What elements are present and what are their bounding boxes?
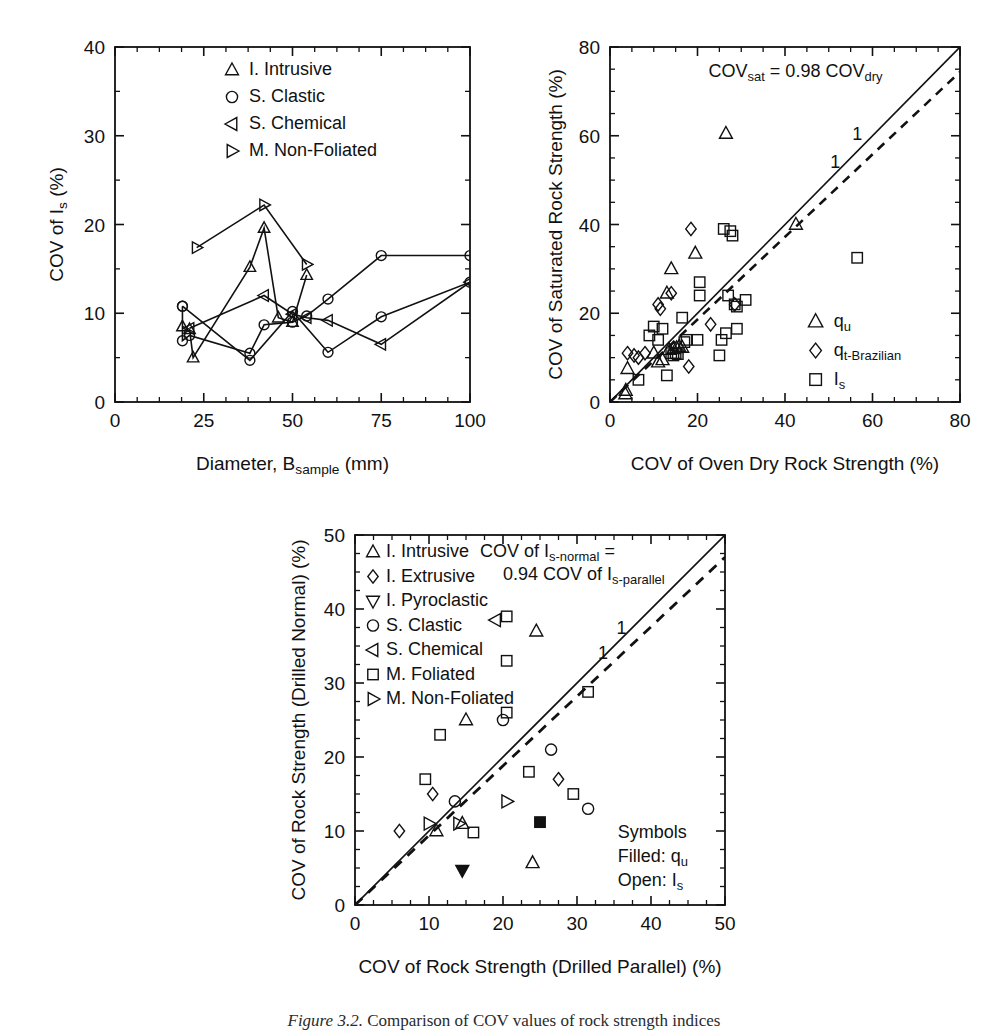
panel-a-legend-marker — [226, 63, 239, 75]
panel-c-data-point — [460, 713, 473, 725]
panel-a-legend-marker — [227, 145, 239, 158]
panel-c-symbols-title: Symbols — [618, 822, 687, 842]
panel-c-legend-label: S. Chemical — [386, 639, 483, 659]
panel-c-data-point — [583, 803, 594, 814]
panel-c-data-point — [497, 714, 508, 725]
panel-b-data-point — [621, 362, 634, 374]
panel-b-data-point — [633, 351, 643, 364]
panel-b-slope-label-lower: 1 — [830, 152, 840, 172]
panel-c-data-point — [568, 789, 578, 799]
panel-b-data-point — [716, 335, 726, 345]
panel-a-xtick-label: 100 — [454, 410, 486, 431]
panel-c-slope-label-upper: 1 — [616, 618, 626, 638]
panel-a-series-line — [197, 205, 307, 264]
panel-b-xtick-label: 80 — [949, 410, 970, 431]
panel-b-data-point — [852, 253, 862, 263]
panel-a-ytick-label: 20 — [84, 215, 105, 236]
panel-b-ytick-label: 0 — [589, 392, 600, 413]
panel-c-xaxis-title: COV of Rock Strength (Drilled Parallel) … — [358, 956, 721, 977]
panel-a-axes: 0255075100010203040Diameter, Bsample (mm… — [46, 37, 486, 477]
panel-b-yaxis-title: COV of Saturated Rock Strength (%) — [545, 69, 566, 379]
panel-b-legend-marker — [808, 314, 822, 327]
panel-b-data-point — [714, 350, 724, 360]
panel-b-data-point — [662, 370, 672, 380]
panel-c-legend-label: I. Pyroclastic — [386, 590, 488, 610]
panel-c-xtick-label: 40 — [640, 913, 661, 934]
figure-caption: Figure 3.2. Comparison of COV values of … — [0, 1006, 1008, 1033]
panel-a-ytick-label: 40 — [84, 37, 105, 58]
panel-b-data-point — [689, 246, 702, 258]
panel-a-legend-label: I. Intrusive — [249, 59, 332, 79]
panel-c-symbols-filled: Filled: qu — [618, 846, 688, 869]
panel-b-xtick-label: 0 — [605, 410, 616, 431]
panel-a-data-point — [260, 199, 270, 210]
panel-b-legend-label: qt-Brazilian — [834, 340, 902, 363]
panel-b-data-point — [719, 127, 732, 139]
panel-c-xtick-label: 50 — [714, 913, 735, 934]
panel-a-series-line — [190, 282, 470, 344]
panel-c-legend-marker — [367, 596, 380, 608]
panel-c-legend-label: S. Clastic — [386, 615, 462, 635]
panel-b-legend-marker — [810, 343, 822, 358]
panel-c-data-point — [489, 614, 501, 627]
panel-b-data-point — [677, 312, 687, 322]
panel-c-data-point — [530, 624, 543, 636]
panel-c-data-point — [435, 730, 445, 740]
panel-a-xtick-label: 50 — [282, 410, 303, 431]
panel-a-data — [177, 199, 475, 365]
panel-c-data-point — [502, 795, 514, 808]
panel-b-equation: COVsat = 0.98 COVdry — [709, 61, 883, 84]
panel-c-data-point — [546, 744, 557, 755]
panel-c-legend-marker — [367, 545, 380, 557]
panel-c-legend-label: I. Extrusive — [386, 566, 475, 586]
panel-c-legend-marker — [367, 620, 378, 631]
panel-c-data-point — [526, 856, 539, 868]
panel-c-xtick-label: 10 — [418, 913, 439, 934]
panel-a-svg: 0255075100010203040Diameter, Bsample (mm… — [0, 0, 500, 500]
panel-b-data-point — [692, 335, 702, 345]
panel-a-xtick-label: 0 — [110, 410, 121, 431]
panel-b-slope-label-upper: 1 — [852, 124, 862, 144]
panel-c-xtick-label: 0 — [350, 913, 361, 934]
panel-c-ytick-label: 50 — [324, 525, 345, 546]
panel-c-ytick-label: 0 — [334, 895, 345, 916]
panel-a-yaxis-title: COV of Is (%) — [46, 167, 70, 282]
panel-b-legend-label: Is — [834, 369, 846, 392]
panel-a-xtick-label: 25 — [193, 410, 214, 431]
panel-b-reference-line — [610, 47, 960, 402]
panel-b-data-point — [705, 318, 715, 331]
panel-a-legend-label: S. Clastic — [249, 86, 325, 106]
panel-c-xtick-label: 20 — [492, 913, 513, 934]
panel-b-ytick-label: 60 — [579, 126, 600, 147]
panel-a-ytick-label: 0 — [94, 392, 105, 413]
panel-c-svg: 0102030405001020304050COV of Rock Streng… — [200, 495, 820, 1000]
panel-b-legend: quqt-BrazilianIs — [808, 311, 901, 392]
panel-c-slope-label-lower: 1 — [598, 643, 608, 663]
panel-a-legend-marker — [226, 91, 237, 102]
panel-c-legend-label: M. Non-Foliated — [386, 688, 514, 708]
figure-number: Figure 3.2. — [288, 1011, 363, 1030]
panel-b-ytick-label: 20 — [579, 303, 600, 324]
panel-c-legend-label: M. Foliated — [386, 664, 475, 684]
panel-b-data — [610, 47, 960, 402]
panel-b-axes: 020406080020406080COV of Oven Dry Rock S… — [545, 37, 971, 474]
panel-c-data-point — [394, 824, 404, 837]
panel-c-ytick-label: 10 — [324, 821, 345, 842]
panel-a-legend-label: M. Non-Foliated — [249, 140, 377, 160]
panel-b-data-point — [694, 290, 704, 300]
panel-c-data-point — [535, 817, 545, 827]
panel-b-data-point — [721, 328, 731, 338]
panel-b-legend-marker — [810, 374, 822, 386]
panel-c-data-point — [524, 767, 534, 777]
panel-a-ytick-label: 10 — [84, 303, 105, 324]
panel-b-xaxis-title: COV of Oven Dry Rock Strength (%) — [631, 453, 939, 474]
panel-b-data-point — [732, 324, 742, 334]
panel-c-yaxis-title: COV of Rock Strength (Drilled Normal) (%… — [288, 539, 309, 900]
panel-c-ytick-label: 20 — [324, 747, 345, 768]
panel-c-chart: 0102030405001020304050COV of Rock Streng… — [200, 495, 820, 1000]
panel-c-equation-line2: 0.94 COV of Is-parallel — [503, 564, 665, 587]
panel-b-xtick-label: 60 — [862, 410, 883, 431]
panel-c-axes: 0102030405001020304050COV of Rock Streng… — [288, 525, 736, 977]
panel-b-data-point — [684, 360, 694, 373]
panel-c-symbols-open: Open: Is — [618, 870, 684, 893]
